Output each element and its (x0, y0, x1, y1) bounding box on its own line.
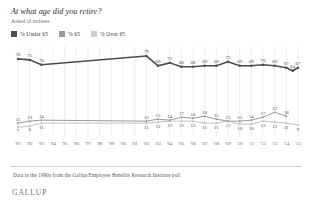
age-65-data-label: 17 (179, 111, 184, 116)
age-65-point[interactable] (262, 116, 264, 118)
x-axis-tick-label: '06 (190, 141, 196, 146)
age-65-point[interactable] (169, 119, 171, 121)
age-65-point[interactable] (274, 111, 276, 113)
x-axis-tick-label: '99 (108, 141, 114, 146)
under-65-point[interactable] (168, 62, 171, 65)
under-65-point[interactable] (262, 64, 265, 67)
under-65-data-label: 73 (226, 55, 231, 60)
x-axis-tick-label: '15 (295, 141, 301, 146)
age-65-gap-connector (41, 120, 146, 121)
age-65-point[interactable] (215, 118, 217, 120)
age-65-data-label: 13 (226, 115, 231, 120)
under-65-point[interactable] (215, 65, 218, 68)
under-65-point[interactable] (28, 59, 31, 62)
x-axis-tick-label: '13 (272, 141, 278, 146)
over-65-data-label: 11 (202, 125, 207, 130)
under-65-point[interactable] (285, 67, 288, 70)
age-65-point[interactable] (29, 120, 31, 122)
under-65-data-label: 79 (144, 49, 149, 54)
under-65-point[interactable] (17, 58, 20, 61)
under-65-data-label: 69 (272, 59, 277, 64)
page-title: At what age did you retire? (11, 7, 302, 17)
over-65-data-label: 10 (237, 126, 242, 131)
legend-label-over-65: % Over 65 (100, 31, 125, 37)
age-65-data-label: 22 (272, 106, 277, 111)
under-65-gap-connector (41, 56, 146, 65)
under-65-point[interactable] (227, 61, 230, 64)
under-65-point[interactable] (273, 65, 276, 68)
age-65-point[interactable] (180, 116, 182, 118)
x-axis-tick-label: '14 (283, 141, 289, 146)
legend-item-65[interactable]: % 65 (59, 31, 80, 37)
age-65-data-label: 14 (39, 114, 44, 119)
under-65-point[interactable] (180, 66, 183, 69)
legend-label-65: % 65 (68, 31, 80, 37)
x-axis-tick-label: '04 (167, 141, 173, 146)
over-65-data-label: 10 (249, 126, 254, 131)
over-65-data-label: 13 (261, 123, 266, 128)
x-axis-tick-label: '97 (85, 141, 91, 146)
under-65-data-label: 69 (237, 59, 242, 64)
age-65-point[interactable] (227, 120, 229, 122)
age-65-point[interactable] (17, 122, 19, 124)
x-axis-tick-label: '96 (73, 141, 79, 146)
x-axis-tick-label: '10 (237, 141, 243, 146)
legend-item-over-65[interactable]: % Over 65 (91, 31, 125, 37)
legend-swatch-under-65 (11, 31, 17, 37)
under-65-data-label: 69 (214, 59, 219, 64)
age-65-point[interactable] (250, 119, 252, 121)
age-65-point[interactable] (145, 120, 147, 122)
x-axis-tick-label: '03 (155, 141, 161, 146)
age-65-data-label: 18 (202, 110, 207, 115)
over-65-data-label: 7 (17, 128, 20, 133)
under-65-data-label: 69 (249, 59, 254, 64)
chart-plot-area: 7811111213131311111310101312119111314131… (9, 42, 302, 142)
x-axis-tick-label: '11 (249, 141, 255, 146)
under-65-point[interactable] (292, 70, 295, 73)
age-65-data-label: 14 (167, 114, 172, 119)
legend-swatch-65 (59, 31, 65, 37)
age-65-point[interactable] (285, 115, 287, 117)
over-65-data-label: 9 (297, 127, 300, 132)
x-axis-tick-label: '00 (120, 141, 126, 146)
age-65-point[interactable] (40, 119, 42, 121)
under-65-point[interactable] (238, 65, 241, 68)
under-65-data-label: 67 (284, 61, 289, 66)
under-65-point[interactable] (192, 66, 195, 69)
over-65-data-label: 11 (39, 125, 44, 130)
legend-swatch-over-65 (91, 31, 97, 37)
under-65-data-label: 75 (27, 53, 32, 58)
x-axis-tick-label: '09 (225, 141, 231, 146)
x-axis-tick-label: '02 (143, 141, 149, 146)
age-65-point[interactable] (239, 120, 241, 122)
over-65-data-label: 11 (214, 125, 219, 130)
age-65-point[interactable] (192, 117, 194, 119)
age-65-data-label: 15 (156, 113, 161, 118)
legend-label-under-65: % Under 65 (20, 31, 48, 37)
under-65-point[interactable] (203, 65, 206, 68)
over-65-data-label: 13 (167, 123, 172, 128)
chart-page: At what age did you retire? Asked of ret… (0, 0, 311, 205)
age-65-data-label: 17 (261, 111, 266, 116)
age-65-point[interactable] (204, 115, 206, 117)
legend-item-under-65[interactable]: % Under 65 (11, 31, 48, 37)
under-65-point[interactable] (250, 65, 253, 68)
age-65-point[interactable] (157, 118, 159, 120)
age-65-data-label: 11 (16, 117, 21, 122)
under-65-point[interactable] (297, 67, 300, 70)
source-note: Data in the 1990s from the Gallup/Employ… (13, 172, 180, 178)
under-65-point[interactable] (40, 64, 43, 67)
over-65-data-label: 11 (284, 125, 289, 130)
under-65-point[interactable] (157, 65, 160, 68)
x-axis-tick-label: '07 (202, 141, 208, 146)
under-65-data-label: 69 (202, 59, 207, 64)
under-65-point[interactable] (145, 55, 148, 58)
age-65-data-label: 15 (214, 113, 219, 118)
over-65-data-label: 8 (28, 127, 31, 132)
page-subtitle: Asked of retirees (11, 18, 302, 24)
chart-legend: % Under 65 % 65 % Over 65 (11, 30, 302, 38)
over-65-data-label: 12 (272, 124, 277, 129)
x-axis-tick-label: '92 (27, 141, 33, 146)
under-65-data-label: 70 (39, 58, 44, 63)
age-65-data-label: 13 (237, 115, 242, 120)
